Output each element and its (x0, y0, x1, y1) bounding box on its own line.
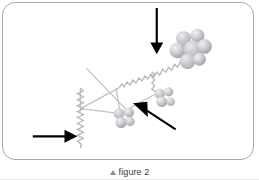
middle-right-cluster (155, 87, 175, 107)
page-bottom-divider (0, 179, 259, 180)
strut-long-diagonal (86, 68, 132, 115)
structure-diagram (3, 3, 253, 159)
upper-right-cluster (170, 29, 212, 69)
arrow-up-left-icon (133, 102, 176, 130)
arrow-down-icon (150, 8, 163, 54)
figure-caption-label: figure 2 (119, 167, 150, 177)
triangle-up-icon (110, 170, 116, 175)
strut-diagonal-secondary (80, 88, 119, 109)
arrow-right-icon (33, 130, 78, 143)
figure-container: figure 2 (0, 0, 259, 180)
figure-panel (2, 2, 254, 160)
main-diagonal-chain (119, 61, 181, 88)
